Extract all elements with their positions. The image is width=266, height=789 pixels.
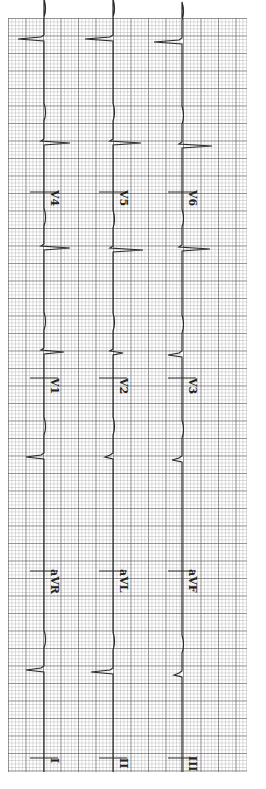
lead-label-I: I <box>49 758 60 763</box>
lead-label-V2: V2 <box>118 378 129 394</box>
lead-label-aVF: aVF <box>187 569 198 592</box>
lead-label-aVR: aVR <box>49 569 60 594</box>
lead-label-III: III <box>187 756 198 771</box>
lead-label-V5: V5 <box>118 190 129 206</box>
lead-label-aVL: aVL <box>118 569 129 592</box>
lead-label-V1: V1 <box>49 378 60 394</box>
lead-label-V6: V6 <box>187 190 198 206</box>
lead-label-II: II <box>118 758 129 768</box>
lead-label-V3: V3 <box>187 378 198 394</box>
lead-label-V4: V4 <box>49 190 60 206</box>
ecg-traces <box>0 0 266 789</box>
